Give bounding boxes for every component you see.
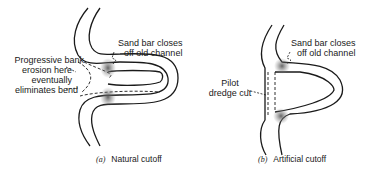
caption-b-text: Artificial cutoff	[273, 154, 326, 164]
erosion-label-line3: eventually	[6, 75, 72, 85]
sandbar-a-top	[100, 58, 116, 78]
sandbar-label-b-line1: Sand bar closes	[291, 38, 356, 48]
sandbar-b-bottom	[273, 108, 289, 124]
natural-cutoff-river	[74, 8, 178, 146]
sandbar-a-bottom	[100, 87, 116, 107]
pilot-label: Pilot dredge cut	[206, 78, 254, 98]
sandbar-label-a: Sand bar closes off old channel	[118, 38, 183, 58]
caption-a-letter: (a)	[96, 155, 105, 164]
caption-b-letter: (b)	[258, 155, 267, 164]
sandbar-label-a-line1: Sand bar closes	[118, 38, 183, 48]
pilot-label-line2: dredge cut	[206, 88, 254, 98]
erosion-label-line1: Progressive bank	[6, 55, 84, 65]
erosion-label-line4: eliminates bend	[6, 85, 78, 95]
caption-a: (a)Natural cutoff	[96, 154, 162, 164]
erosion-label-line2: erosion here	[6, 65, 72, 75]
sandbar-label-a-line2: off old channel	[124, 48, 183, 58]
caption-a-text: Natural cutoff	[111, 154, 161, 164]
pilot-label-line1: Pilot	[206, 78, 254, 88]
caption-b: (b)Artificial cutoff	[258, 154, 326, 164]
sandbar-label-b: Sand bar closes off old channel	[291, 38, 356, 58]
natural-cutoff-dashed-path	[78, 62, 160, 96]
sandbar-b-top	[274, 58, 290, 74]
sandbar-label-b-line2: off old channel	[297, 48, 356, 58]
erosion-label: Progressive bank erosion here eventually…	[6, 55, 84, 95]
